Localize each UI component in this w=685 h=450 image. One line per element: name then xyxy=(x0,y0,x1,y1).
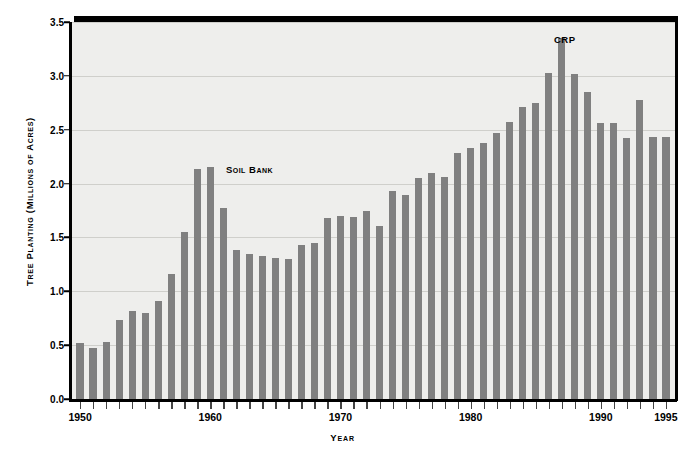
x-tick-mark xyxy=(471,402,472,409)
x-tick-mark xyxy=(184,402,185,409)
x-axis-ticks: 195019601970198019901995 xyxy=(0,0,685,450)
x-tick-mark xyxy=(366,402,367,409)
x-tick-label: 1980 xyxy=(459,411,482,423)
x-tick-mark xyxy=(327,402,328,409)
x-tick-mark xyxy=(314,402,315,409)
x-tick-mark xyxy=(640,402,641,409)
x-tick-label: 1990 xyxy=(589,411,612,423)
x-tick-label: 1995 xyxy=(654,411,677,423)
x-tick-mark xyxy=(353,402,354,409)
x-tick-mark xyxy=(93,402,94,409)
x-tick-mark xyxy=(588,402,589,409)
x-tick-mark xyxy=(262,402,263,409)
x-tick-mark xyxy=(432,402,433,409)
x-tick-mark xyxy=(236,402,237,409)
x-tick-mark xyxy=(197,402,198,409)
x-tick-mark xyxy=(301,402,302,409)
x-tick-mark xyxy=(145,402,146,409)
x-tick-mark xyxy=(275,402,276,409)
x-tick-label: 1950 xyxy=(68,411,91,423)
x-tick-mark xyxy=(158,402,159,409)
x-tick-mark xyxy=(106,402,107,409)
x-tick-mark xyxy=(171,402,172,409)
x-tick-mark xyxy=(380,402,381,409)
x-tick-label: 1960 xyxy=(199,411,222,423)
x-tick-mark xyxy=(80,402,81,409)
x-tick-mark xyxy=(458,402,459,409)
x-tick-mark xyxy=(249,402,250,409)
x-axis-title: Year xyxy=(0,432,685,443)
x-tick-mark xyxy=(132,402,133,409)
x-tick-mark xyxy=(653,402,654,409)
x-tick-mark xyxy=(575,402,576,409)
x-tick-mark xyxy=(340,402,341,409)
x-tick-mark xyxy=(406,402,407,409)
x-tick-mark xyxy=(601,402,602,409)
x-tick-mark xyxy=(497,402,498,409)
x-tick-mark xyxy=(510,402,511,409)
x-tick-mark xyxy=(627,402,628,409)
x-tick-mark xyxy=(419,402,420,409)
x-tick-mark xyxy=(288,402,289,409)
x-tick-mark xyxy=(666,402,667,409)
x-tick-mark xyxy=(523,402,524,409)
x-tick-mark xyxy=(562,402,563,409)
chart-figure: Tree Planting (Millions of Acres) Soil B… xyxy=(0,0,685,450)
x-tick-mark xyxy=(484,402,485,409)
x-tick-mark xyxy=(549,402,550,409)
x-tick-mark xyxy=(223,402,224,409)
x-tick-mark xyxy=(210,402,211,409)
x-tick-label: 1970 xyxy=(329,411,352,423)
x-tick-mark xyxy=(445,402,446,409)
x-tick-mark xyxy=(614,402,615,409)
x-tick-mark xyxy=(393,402,394,409)
x-tick-mark xyxy=(536,402,537,409)
x-tick-mark xyxy=(119,402,120,409)
